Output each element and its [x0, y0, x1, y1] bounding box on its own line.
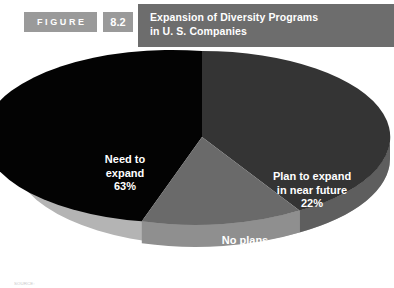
figure-number-badge: 8.2	[103, 12, 133, 32]
slice-label-no-plans: No plans to expand 15%	[193, 234, 297, 275]
figure-header: FIGURE 8.2 Expansion of Diversity Progra…	[0, 0, 394, 50]
pie-chart: Need to expand 63% Plan to expand in nea…	[0, 48, 394, 276]
figure-title-bar: Expansion of Diversity Programs in U. S.…	[138, 4, 394, 47]
slice-label-need-to-expand: Need to expand 63%	[77, 153, 173, 194]
figure-title-line-1: Expansion of Diversity Programs	[150, 11, 394, 25]
figure-word-badge: FIGURE	[24, 12, 97, 32]
slice-label-plan-to-expand: Plan to expand in near future 22%	[250, 170, 374, 211]
figure-title-line-2: in U. S. Companies	[150, 25, 394, 39]
source-note: SOURCE:	[14, 281, 384, 286]
